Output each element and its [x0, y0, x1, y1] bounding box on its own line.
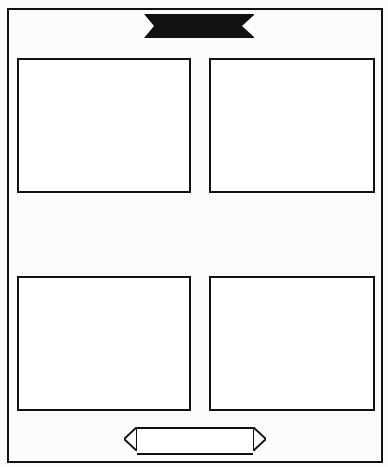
quadrant-bottom-right: [209, 276, 375, 411]
bar-label: [189, 196, 208, 258]
point-numbers-bottom-right: [209, 259, 371, 273]
quadrant-top-right: [209, 58, 375, 193]
point-numbers-bottom-left: [17, 259, 187, 273]
ribbon-left-notch-icon: [124, 427, 137, 451]
quadrant-bottom-left: [17, 276, 191, 411]
point-numbers-top-left: [17, 193, 187, 207]
white-title-ribbon: [137, 427, 253, 455]
quadrant-top-left: [17, 58, 191, 193]
ribbon-right-notch-icon: [253, 427, 266, 451]
point-numbers-top-right: [209, 193, 371, 207]
black-title-ribbon: [144, 14, 254, 38]
backgammon-diagram: [0, 0, 388, 467]
